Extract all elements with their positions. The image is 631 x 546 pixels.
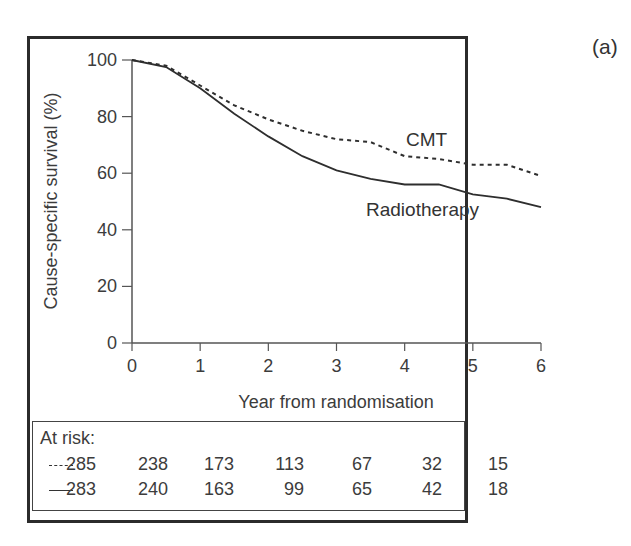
y-tick-label: 60: [97, 163, 117, 183]
x-tick-label: 0: [127, 356, 137, 376]
at-risk-count: 240: [124, 479, 168, 500]
x-tick-label: 2: [263, 356, 273, 376]
at-risk-count: 285: [52, 454, 96, 475]
x-tick-label: 5: [468, 356, 478, 376]
y-tick-label: 40: [97, 220, 117, 240]
at-risk-row-cmt: 285238173113673215: [33, 454, 464, 478]
at-risk-count: 283: [52, 479, 96, 500]
at-risk-count: 32: [398, 454, 442, 475]
y-axis-title: Cause-specific survival (%): [41, 92, 61, 309]
x-axis-ticks: 0123456: [127, 343, 546, 376]
at-risk-count: 173: [190, 454, 234, 475]
y-axis-ticks: 020406080100: [87, 50, 132, 353]
at-risk-count: 163: [190, 479, 234, 500]
at-risk-count: 99: [260, 479, 304, 500]
y-tick-label: 20: [97, 276, 117, 296]
x-tick-label: 6: [536, 356, 546, 376]
at-risk-count: 238: [124, 454, 168, 475]
at-risk-count: 42: [398, 479, 442, 500]
y-tick-label: 0: [107, 333, 117, 353]
at-risk-count: 67: [328, 454, 372, 475]
at-risk-count: 113: [260, 454, 304, 475]
at-risk-table: At risk: 285238173113673215 283240163996…: [32, 421, 465, 511]
at-risk-count: 15: [464, 454, 508, 475]
x-tick-label: 1: [195, 356, 205, 376]
survival-chart: 020406080100 0123456 Cause-specific surv…: [0, 0, 631, 420]
at-risk-title: At risk:: [40, 428, 95, 449]
at-risk-row-radiotherapy: 28324016399654218: [33, 479, 464, 503]
y-tick-label: 80: [97, 107, 117, 127]
axes: [132, 60, 541, 343]
x-axis-title: Year from randomisation: [238, 392, 433, 412]
radiotherapy-series-label: Radiotherapy: [366, 199, 480, 220]
at-risk-count: 18: [464, 479, 508, 500]
cmt-survival-line: [132, 60, 541, 176]
cmt-series-label: CMT: [406, 129, 448, 150]
y-tick-label: 100: [87, 50, 117, 70]
at-risk-count: 65: [328, 479, 372, 500]
x-tick-label: 3: [331, 356, 341, 376]
x-tick-label: 4: [400, 356, 410, 376]
